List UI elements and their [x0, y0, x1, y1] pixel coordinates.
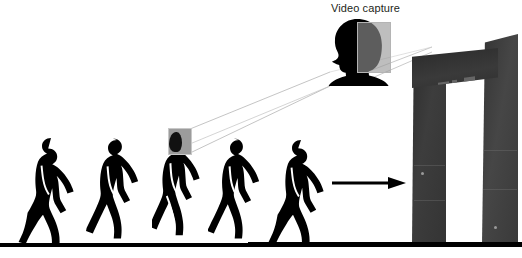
metal-detector-gate [404, 26, 522, 244]
mini-head-silhouette-icon [169, 132, 182, 152]
video-capture-overlay-box [357, 22, 391, 73]
direction-arrow-icon [332, 176, 406, 190]
walker-silhouette-1 [18, 135, 78, 247]
ground-line-right [248, 242, 522, 247]
video-capture-label: Video capture [331, 2, 400, 14]
head-capture-box [168, 128, 192, 155]
walker-silhouette-5 [268, 137, 328, 247]
walker-silhouette-4 [208, 137, 266, 247]
gate-control-panel-d [464, 84, 475, 91]
gate-seam [483, 189, 517, 190]
walker-silhouette-2 [86, 137, 144, 247]
gate-bolt-right [494, 226, 497, 229]
gait-recognition-diagram: Video capture [0, 0, 522, 258]
gate-seam [483, 150, 517, 151]
gate-control-panel-c [464, 76, 475, 84]
gate-bolt-left [421, 172, 424, 175]
gate-control-panel-b [452, 80, 457, 92]
gate-seam [414, 200, 445, 201]
gate-seam [414, 165, 445, 166]
